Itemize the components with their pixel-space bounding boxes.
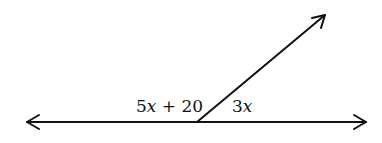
ray-line (197, 15, 325, 122)
angle-label-left: 5x + 20 (136, 96, 203, 116)
angle-label-right: 3x (232, 96, 253, 116)
angle-diagram: 5x + 20 3x (0, 0, 382, 143)
diagram-canvas: 5x + 20 3x (0, 0, 382, 143)
